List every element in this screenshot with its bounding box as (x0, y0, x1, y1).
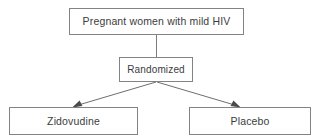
node-control-arm: Placebo (189, 107, 311, 135)
node-randomized-label: Randomized (127, 65, 185, 75)
edge-randomized-to-zidovudine (75, 82, 156, 106)
flowchart-diagram: Pregnant women with mild HIV Randomized … (0, 0, 319, 140)
edge-randomized-to-placebo (157, 82, 238, 106)
node-treatment-arm-label: Zidovudine (47, 116, 100, 127)
node-randomized: Randomized (119, 57, 193, 82)
node-population: Pregnant women with mild HIV (69, 8, 244, 35)
node-control-arm-label: Placebo (231, 116, 270, 127)
node-population-label: Pregnant women with mild HIV (83, 16, 231, 27)
node-treatment-arm: Zidovudine (9, 107, 138, 135)
